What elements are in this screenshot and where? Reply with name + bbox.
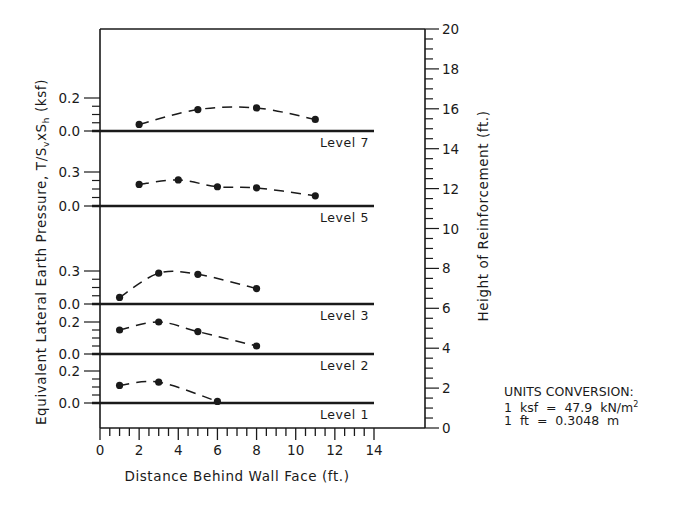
level-label: Level 3 — [320, 308, 369, 323]
level-panel-level-3: 0.00.3Level 3 — [59, 263, 374, 323]
data-point — [253, 104, 260, 111]
x-axis-label: Distance Behind Wall Face (ft.) — [124, 468, 349, 484]
data-point — [214, 398, 221, 405]
data-point — [116, 382, 123, 389]
data-point — [194, 328, 201, 335]
data-point — [312, 116, 319, 123]
left-y-tick-label: 0.0 — [59, 123, 80, 139]
units-conversion-note: UNITS CONVERSION: 1 ksf = 47.9 kN/m2 1 f… — [504, 385, 638, 427]
left-y-tick-label: 0.2 — [59, 363, 80, 379]
x-tick-label: 6 — [213, 442, 222, 458]
data-point — [253, 285, 260, 292]
data-point — [116, 294, 123, 301]
level-label: Level 2 — [320, 358, 369, 373]
x-tick-label: 4 — [174, 442, 183, 458]
data-point — [155, 270, 162, 277]
right-y-tick-label: 8 — [442, 260, 451, 276]
data-point — [116, 326, 123, 333]
right-y-tick-label: 0 — [442, 420, 451, 436]
x-tick-label: 2 — [135, 442, 144, 458]
left-y-tick-label: 0.0 — [59, 395, 80, 411]
units-ksf: 1 ksf = 47.9 kN/m2 — [504, 398, 638, 414]
left-y-tick-label: 0.0 — [59, 296, 80, 312]
level-label: Level 5 — [320, 210, 369, 225]
level-panel-level-5: 0.00.3Level 5 — [59, 164, 374, 225]
data-point — [175, 176, 182, 183]
level-label: Level 1 — [320, 407, 369, 422]
data-curve — [120, 322, 257, 346]
right-y-tick-label: 14 — [442, 141, 459, 157]
data-curve — [139, 107, 315, 124]
data-point — [194, 106, 201, 113]
left-y-axis-label: Equivalent Lateral Earth Pressure, T/Svx… — [33, 79, 51, 425]
right-y-axis-label: Height of Reinforcement (ft.) — [475, 110, 491, 321]
units-ft: 1 ft = 0.3048 m — [504, 414, 638, 427]
data-point — [136, 121, 143, 128]
x-tick-label: 10 — [287, 442, 304, 458]
left-y-tick-label: 0.3 — [59, 164, 80, 180]
data-point — [312, 192, 319, 199]
x-tick-label: 14 — [365, 442, 382, 458]
x-axis: 02468101214 — [96, 428, 383, 458]
right-y-tick-label: 2 — [442, 380, 451, 396]
plot-frame — [100, 29, 425, 428]
data-curve — [139, 180, 315, 196]
left-y-tick-label: 0.0 — [59, 198, 80, 214]
data-point — [155, 318, 162, 325]
level-label: Level 7 — [320, 135, 369, 150]
data-point — [136, 181, 143, 188]
data-point — [194, 271, 201, 278]
left-y-tick-label: 0.3 — [59, 263, 80, 279]
right-y-tick-label: 16 — [442, 101, 459, 117]
right-y-tick-label: 4 — [442, 340, 451, 356]
data-point — [214, 183, 221, 190]
right-y-tick-label: 18 — [442, 61, 459, 77]
right-y-axis: 02468101214161820 — [425, 21, 459, 436]
right-y-tick-label: 10 — [442, 221, 459, 237]
x-tick-label: 8 — [252, 442, 261, 458]
x-tick-label: 12 — [326, 442, 343, 458]
right-y-tick-label: 20 — [442, 21, 459, 37]
level-panels: 0.00.2Level 70.00.3Level 50.00.3Level 30… — [59, 90, 374, 422]
data-curve — [120, 381, 218, 401]
pressure-chart: 0.00.2Level 70.00.3Level 50.00.3Level 30… — [0, 0, 694, 509]
data-point — [253, 342, 260, 349]
data-point — [253, 184, 260, 191]
left-y-tick-label: 0.2 — [59, 90, 80, 106]
x-tick-label: 0 — [96, 442, 105, 458]
data-curve — [120, 271, 257, 297]
right-y-tick-label: 6 — [442, 300, 451, 316]
data-point — [155, 379, 162, 386]
left-y-tick-label: 0.2 — [59, 314, 80, 330]
right-y-tick-label: 12 — [442, 181, 459, 197]
left-y-tick-label: 0.0 — [59, 346, 80, 362]
units-title: UNITS CONVERSION: — [504, 385, 638, 398]
level-panel-level-7: 0.00.2Level 7 — [59, 90, 374, 150]
